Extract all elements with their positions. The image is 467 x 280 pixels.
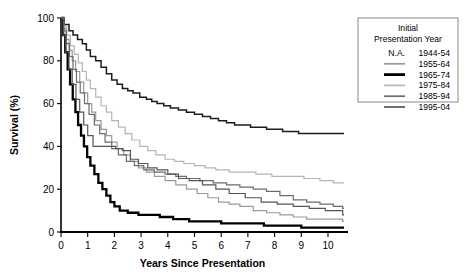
x-axis-tick-label: 8: [272, 240, 278, 251]
y-axis-title: Survival (%): [8, 95, 20, 155]
x-axis-tick-label: 6: [218, 240, 224, 251]
x-axis-tick-label: 5: [192, 240, 198, 251]
survival-curve-1955-64: [61, 18, 344, 221]
legend-label-1944-54: 1944-54: [418, 48, 450, 58]
survival-curve-figure: 020406080100012345678910Years Since Pres…: [0, 0, 467, 280]
survival-curve-1975-84: [61, 18, 344, 183]
legend-label-1965-74: 1965-74: [418, 70, 450, 80]
y-axis-tick-label: 0: [48, 227, 54, 238]
chart-canvas: 020406080100012345678910Years Since Pres…: [0, 0, 467, 280]
legend: InitialPresentation YearN.A.1944-541955-…: [358, 18, 458, 112]
y-axis-tick-label: 100: [37, 13, 54, 24]
y-axis-tick-label: 60: [43, 98, 55, 109]
x-axis-tick-label: 2: [112, 240, 118, 251]
y-axis-tick-label: 20: [43, 184, 55, 195]
survival-curve-1985-94: [61, 18, 344, 208]
x-axis-tick-label: 9: [299, 240, 305, 251]
x-axis-tick-label: 0: [58, 240, 64, 251]
legend-label-1985-94: 1985-94: [418, 91, 450, 101]
y-axis-tick-label: 40: [43, 141, 55, 152]
survival-curve-1944-54: [61, 18, 344, 134]
legend-swatch-na: N.A.: [388, 48, 405, 58]
curves-group: [61, 18, 344, 228]
survival-curve-1965-74: [61, 18, 344, 228]
legend-title-line-1: Initial: [398, 23, 418, 33]
x-axis-tick-label: 1: [85, 240, 91, 251]
x-axis-tick-label: 10: [322, 240, 334, 251]
x-axis-tick-label: 4: [165, 240, 171, 251]
y-axis-tick-label: 80: [43, 55, 55, 66]
legend-title-line-2: Presentation Year: [374, 34, 442, 44]
x-axis-tick-label: 3: [138, 240, 144, 251]
axes: 020406080100012345678910Years Since Pres…: [8, 13, 348, 269]
legend-label-1955-64: 1955-64: [418, 59, 450, 69]
x-axis-title: Years Since Presentation: [140, 257, 265, 269]
x-axis-tick-label: 7: [245, 240, 251, 251]
legend-label-1975-84: 1975-84: [418, 80, 450, 90]
legend-label-1995-04: 1995-04: [418, 102, 450, 112]
